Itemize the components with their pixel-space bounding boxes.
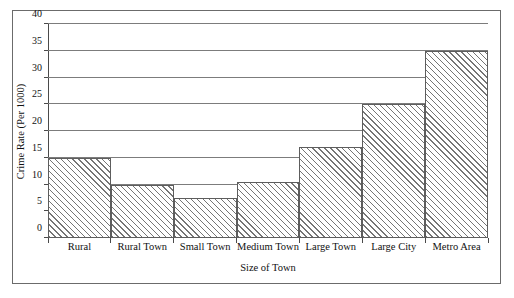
bar-large-city: [362, 104, 425, 238]
bar-small-town: [174, 198, 237, 238]
bar-cell: [362, 24, 425, 238]
x-tick-label: Rural Town: [111, 242, 174, 253]
y-tick-label: 20: [32, 116, 42, 126]
y-axis-title-text: Crime Rate (Per 1000): [16, 83, 27, 178]
x-tick-label: Rural: [48, 242, 111, 253]
bar-cell: [237, 24, 300, 238]
bars-group: [48, 24, 488, 238]
bar-rural-town: [111, 185, 174, 239]
x-tick-label: Medium Town: [237, 242, 300, 253]
x-tick-label: Large City: [362, 242, 425, 253]
y-tick-label: 5: [37, 196, 42, 206]
plot-area: 0510152025303540: [48, 24, 488, 238]
x-tick-label: Large Town: [299, 242, 362, 253]
bar-large-town: [299, 147, 362, 238]
bar-rural: [48, 158, 111, 238]
bar-cell: [111, 24, 174, 238]
bar-cell: [48, 24, 111, 238]
y-tick-label: 30: [32, 63, 42, 73]
y-tick-label: 15: [32, 143, 42, 153]
crime-rate-bar-chart-figure: Crime Rate (Per 1000) 0510152025303540 R…: [0, 0, 514, 298]
bar-cell: [425, 24, 488, 238]
bar-medium-town: [237, 182, 300, 238]
x-axis-title: Size of Town: [48, 262, 488, 273]
y-tick-label: 40: [32, 9, 42, 19]
y-tick-label: 25: [32, 89, 42, 99]
x-tick-label: Metro Area: [425, 242, 488, 253]
y-tick-label: 10: [32, 170, 42, 180]
x-tick-label: Small Town: [174, 242, 237, 253]
y-axis-title: Crime Rate (Per 1000): [14, 24, 28, 238]
bar-cell: [299, 24, 362, 238]
y-tick-label: 35: [32, 36, 42, 46]
bar-cell: [174, 24, 237, 238]
x-tick-labels-group: RuralRural TownSmall TownMedium TownLarg…: [48, 242, 488, 253]
y-tick-label: 0: [37, 223, 42, 233]
bar-metro-area: [425, 51, 488, 238]
